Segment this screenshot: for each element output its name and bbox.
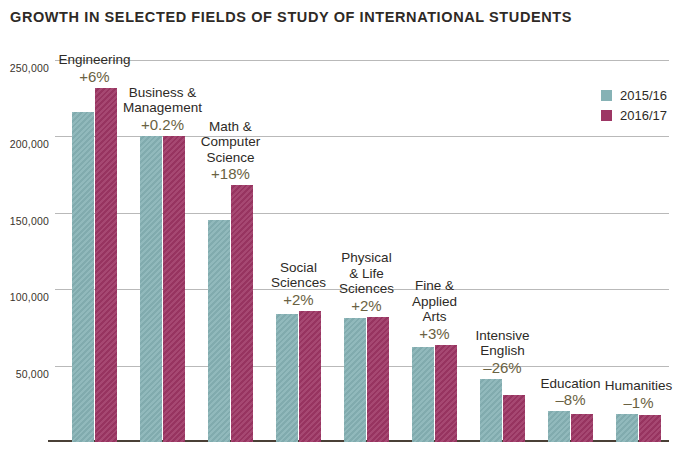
bar-0 [344,318,366,442]
chart-title: GROWTH IN SELECTED FIELDS OF STUDY OF IN… [10,9,572,25]
bar-1 [299,311,321,442]
category-label-line: Humanities [579,378,679,394]
category-label: Humanities–1% [579,378,679,411]
category-label-line: Intensive [443,328,563,344]
category-label-line: Computer [171,134,291,150]
category-label-line: Physical [307,250,427,266]
bar-1 [95,88,117,442]
bar-0 [412,347,434,442]
y-axis-tick-label: 100,000 [10,291,49,303]
category-label-line: Fine & [375,278,495,294]
legend-swatch [601,90,612,101]
y-axis-tick-label: 50,000 [16,368,49,380]
bar-1 [639,415,661,443]
bar-0 [72,112,94,442]
bar-0 [616,414,638,442]
category-label-line: Math & [171,119,291,135]
bar-0 [548,411,570,442]
growth-percent-label: –1% [579,394,679,411]
bar-1 [231,185,253,442]
bar-0 [208,220,230,442]
category-label-line: Arts [375,309,495,325]
legend-label: 2015/16 [620,88,667,103]
chart-legend: 2015/162016/17 [601,88,667,128]
bar-0 [140,136,162,442]
y-axis-tick-label: 200,000 [10,138,49,150]
growth-percent-label: +6% [35,68,155,85]
chart-container: GROWTH IN SELECTED FIELDS OF STUDY OF IN… [0,0,679,463]
y-axis-tick-label: 150,000 [10,215,49,227]
bar-1 [571,414,593,442]
legend-label: 2016/17 [620,108,667,123]
category-label-line: Science [171,150,291,166]
bar-0 [480,379,502,442]
legend-item: 2016/17 [601,108,667,123]
category-label-line: English [443,343,563,359]
category-label: IntensiveEnglish–26% [443,328,563,376]
legend-swatch [601,110,612,121]
category-label: Math &ComputerScience+18% [171,119,291,183]
bar-0 [276,314,298,442]
category-label-line: Engineering [35,52,155,68]
category-label-line: Applied [375,294,495,310]
category-label: Engineering+6% [35,52,155,85]
growth-percent-label: –26% [443,359,563,376]
category-label-line: Business & [103,85,223,101]
legend-item: 2015/16 [601,88,667,103]
growth-percent-label: +18% [171,165,291,182]
category-label-line: Management [103,100,223,116]
